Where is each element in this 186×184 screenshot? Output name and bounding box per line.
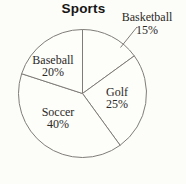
slice-label-baseball-pct: 20% xyxy=(13,66,93,78)
slice-label-basketball: Basketball 15% xyxy=(107,11,186,37)
slice-label-basketball-pct: 15% xyxy=(107,24,186,37)
slice-label-soccer: Soccer 40% xyxy=(18,106,98,130)
slice-label-baseball: Baseball 20% xyxy=(13,54,93,78)
slice-label-soccer-pct: 40% xyxy=(18,118,98,130)
pie-chart-figure: Sports Basketball 15% Golf 25% Soccer 40… xyxy=(0,0,186,184)
